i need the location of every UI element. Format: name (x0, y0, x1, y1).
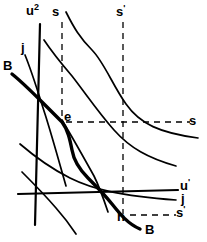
label-u2: u2 (26, 4, 39, 17)
label-B-top: B (3, 59, 12, 72)
label-j-top: j (21, 41, 25, 54)
label-s-prime-bottom: s' (176, 206, 185, 219)
label-e: e (64, 110, 71, 123)
lower-left-curve (22, 172, 76, 234)
label-h: h (117, 210, 125, 223)
s-prime-curve (44, 40, 176, 166)
s-curve-upper (66, 12, 198, 138)
label-s-right: s (189, 114, 196, 127)
label-B-bottom: B (145, 223, 154, 236)
diagram-figure: u2 s s' j B e s u' j s' h B (0, 0, 207, 242)
label-s-top-left: s (52, 5, 59, 18)
label-s-prime-top: s' (116, 5, 125, 18)
guide-lines (62, 22, 190, 215)
axes (18, 24, 178, 225)
u2-vertical-axis (35, 24, 40, 225)
